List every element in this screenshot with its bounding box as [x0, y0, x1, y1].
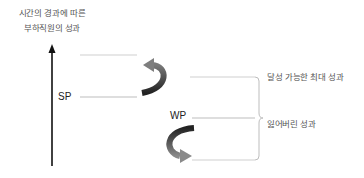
up-arrow-icon — [49, 44, 56, 166]
right-curly-brace-icon — [255, 77, 263, 160]
curved-arrow-up-icon — [142, 58, 164, 93]
sp-label: SP — [58, 91, 71, 102]
wp-label: WP — [170, 110, 186, 121]
diagram-canvas — [0, 0, 364, 178]
curved-arrow-down-icon — [169, 128, 194, 163]
lost-performance-label: 잃어버린 성과 — [267, 117, 316, 129]
max-performance-label: 달성 가능한 최대 성과 — [267, 70, 344, 82]
